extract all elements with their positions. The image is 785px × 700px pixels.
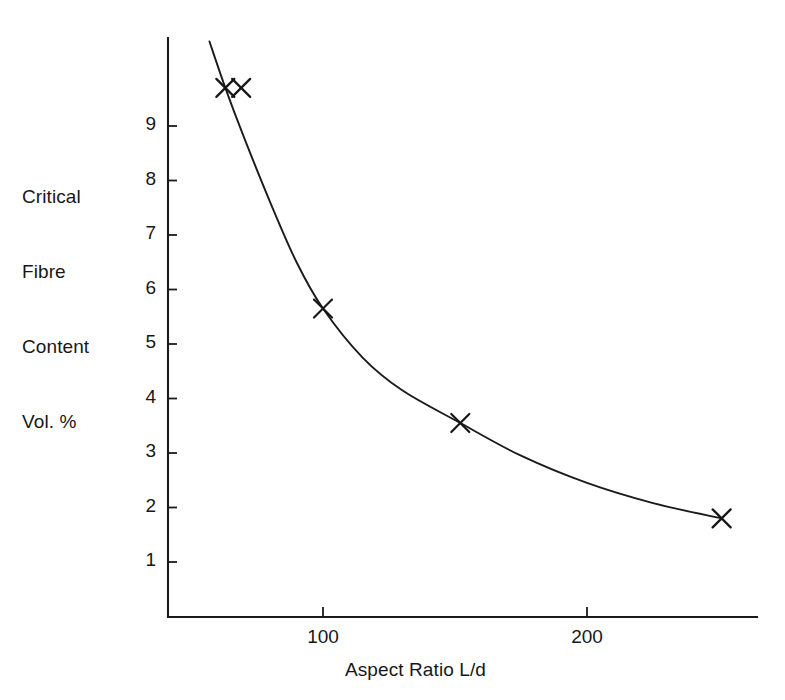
y-tick-label: 9 <box>130 113 156 135</box>
y-axis-title-line-4: Vol. % <box>22 409 89 434</box>
x-tick-label: 200 <box>557 626 617 648</box>
y-axis-title-line-3: Content <box>22 334 89 359</box>
y-tick-label: 6 <box>130 277 156 299</box>
y-axis-title-line-2: Fibre <box>22 259 89 284</box>
y-axis-title: Critical Fibre Content Vol. % <box>22 134 89 484</box>
data-point-marker <box>232 79 250 97</box>
data-point-marker <box>451 414 469 432</box>
y-tick-marks <box>168 126 177 562</box>
data-point-markers <box>216 79 730 528</box>
x-axis-title-text: Aspect Ratio L/d <box>345 659 486 680</box>
data-point-marker <box>216 79 234 97</box>
y-tick-label: 5 <box>130 331 156 353</box>
plot-area <box>0 0 785 700</box>
x-tick-label: 100 <box>293 626 353 648</box>
x-tick-marks <box>323 607 587 617</box>
y-tick-label: 3 <box>130 440 156 462</box>
x-axis-title: Aspect Ratio L/d <box>0 659 785 681</box>
data-point-marker <box>314 300 332 318</box>
data-curve <box>209 42 721 519</box>
y-tick-label: 2 <box>130 495 156 517</box>
y-tick-label: 1 <box>130 549 156 571</box>
data-point-marker <box>713 509 731 527</box>
chart-figure: Critical Fibre Content Vol. % 123456789 … <box>0 0 785 700</box>
y-tick-label: 8 <box>130 168 156 190</box>
y-tick-label: 4 <box>130 386 156 408</box>
axes-group <box>168 38 757 617</box>
y-axis-title-line-1: Critical <box>22 184 89 209</box>
y-tick-label: 7 <box>130 222 156 244</box>
